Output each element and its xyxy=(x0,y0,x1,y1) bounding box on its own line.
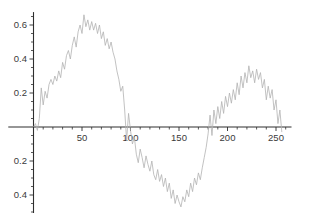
y-tick-label: 0.2 xyxy=(14,87,27,98)
x-tick-label: 150 xyxy=(171,132,187,143)
x-tick-label: 250 xyxy=(268,132,284,143)
x-tick-label: 50 xyxy=(77,132,88,143)
y-tick-label: 0.6 xyxy=(14,19,27,30)
signal-chart: 501001502002500.60.40.20.20.4 xyxy=(0,0,310,219)
y-tick-label: 0.4 xyxy=(14,189,27,200)
y-tick-label: 0.4 xyxy=(14,53,27,64)
plot-canvas: 501001502002500.60.40.20.20.4 xyxy=(0,0,310,219)
y-tick-label: 0.2 xyxy=(14,155,27,166)
x-tick-label: 200 xyxy=(220,132,236,143)
signal-line xyxy=(34,15,282,207)
